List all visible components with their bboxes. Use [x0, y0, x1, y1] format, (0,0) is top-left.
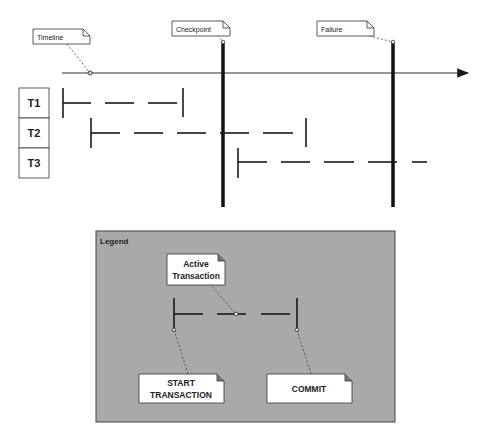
transaction-labels: T1 T2 T3	[19, 88, 49, 178]
transaction-recovery-diagram: Timeline Checkpoint Failure T1 T2 T3	[0, 0, 480, 441]
t3-label: T3	[28, 157, 41, 169]
active-transaction-line2: Transaction	[172, 271, 220, 281]
t1-label: T1	[28, 97, 41, 109]
timeline-note: Timeline	[33, 29, 90, 73]
timeline-label: Timeline	[37, 34, 63, 41]
failure-marker: Failure	[317, 21, 395, 207]
active-transaction-line1: Active	[183, 259, 209, 269]
start-transaction-line2: TRANSACTION	[150, 390, 212, 400]
start-transaction-line1: START	[167, 378, 196, 388]
t3-transaction-line	[238, 148, 427, 178]
timeline	[62, 71, 468, 75]
t2-transaction-line	[91, 118, 306, 148]
commit-label: COMMIT	[292, 384, 327, 394]
checkpoint-marker: Checkpoint	[172, 21, 230, 207]
legend-title: Legend	[100, 237, 129, 246]
legend-panel: Legend Active Transaction START TRANSACT…	[96, 231, 395, 422]
checkpoint-label: Checkpoint	[176, 26, 211, 34]
t1-transaction-line	[63, 88, 183, 118]
t2-label: T2	[28, 127, 41, 139]
failure-label: Failure	[321, 26, 343, 33]
